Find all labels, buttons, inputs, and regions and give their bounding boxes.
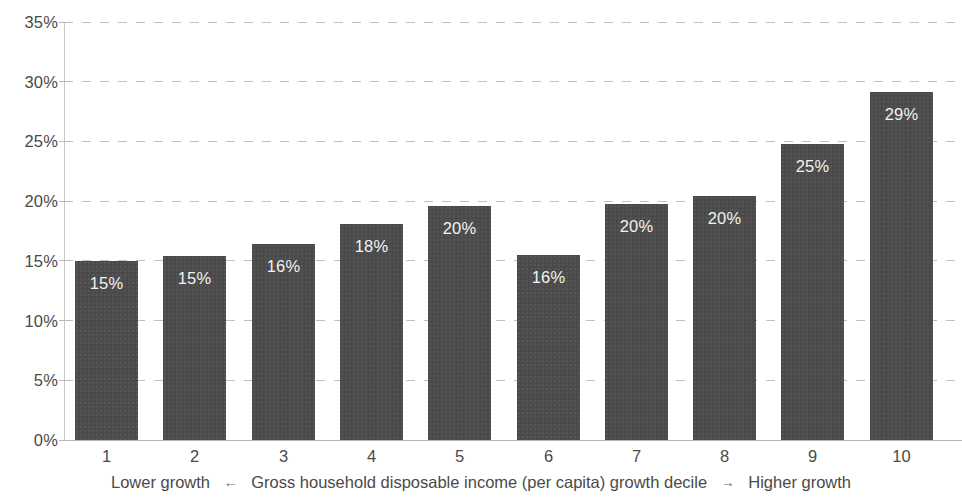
x-axis-caption-center: Gross household disposable income (per c… [251,473,707,491]
bar-value-label: 16% [252,258,315,275]
bar-value-label: 16% [517,269,580,286]
bar: 20% [693,196,756,440]
bar: 16% [252,244,315,440]
bar: 29% [870,92,933,440]
right-arrow-icon: → [712,475,744,489]
x-axis-tick-label: 1 [75,448,138,465]
left-arrow-icon: ← [215,475,247,489]
x-axis-tick-label: 8 [693,448,756,465]
x-axis-tick-label: 5 [428,448,491,465]
bar-value-label: 15% [75,275,138,292]
x-axis-tick-label: 3 [252,448,315,465]
bar: 20% [428,206,491,440]
bar-value-label: 20% [605,218,668,235]
x-axis-tick-label: 9 [781,448,844,465]
bar-value-label: 20% [693,210,756,227]
bar-value-label: 15% [163,270,226,287]
x-axis-tick-label: 10 [870,448,933,465]
x-axis-tick-label: 2 [163,448,226,465]
bar: 25% [781,144,844,440]
bar: 15% [163,256,226,440]
bar-chart: 0%5%10%15%20%25%30%35% 15%15%16%18%20%16… [0,0,962,497]
bar-value-label: 18% [340,238,403,255]
x-axis-tick-label: 4 [340,448,403,465]
bar-value-label: 20% [428,220,491,237]
bar: 18% [340,224,403,440]
x-axis-tick-label: 7 [605,448,668,465]
x-axis-caption-right: Higher growth [748,473,851,491]
bar: 16% [517,255,580,440]
bar: 20% [605,204,668,440]
plot-area: 15%15%16%18%20%16%20%20%25%29% [0,0,962,441]
x-axis-tick-label: 6 [517,448,580,465]
bar: 15% [75,261,138,440]
bar-value-label: 29% [870,106,933,123]
x-axis-caption-left: Lower growth [111,473,210,491]
bar-value-label: 25% [781,158,844,175]
x-axis-caption: Lower growth ← Gross household disposabl… [0,474,962,491]
